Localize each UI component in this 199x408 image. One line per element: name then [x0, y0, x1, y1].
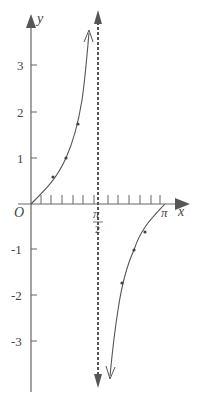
asymptote-up-arrow-icon: [94, 10, 102, 24]
y-tick-2: 2: [17, 105, 24, 120]
y-tick-3: 3: [17, 58, 24, 73]
pi-label: π: [161, 205, 168, 220]
asymptote-line: [94, 10, 102, 388]
point-pi-6: [51, 175, 54, 178]
tangent-graph: y x O π 2 π 3 2 1 -1 -2 -3: [0, 0, 199, 408]
y-tick-1: 1: [17, 151, 24, 166]
asymptote-down-arrow-icon: [94, 374, 102, 388]
y-tick-minus-3: -3: [11, 334, 22, 349]
pi-half-denominator: 2: [95, 224, 100, 235]
pi-half-numerator: π: [93, 206, 100, 221]
y-tick-minus-2: -2: [11, 288, 22, 303]
y-tick-minus-1: -1: [11, 242, 22, 257]
curve-right-branch: [106, 204, 165, 379]
point-5pi-6: [143, 230, 146, 233]
origin-label: O: [14, 205, 24, 220]
point-pi-3: [76, 122, 79, 125]
point-3pi-4: [132, 248, 135, 251]
y-axis-arrow-icon: [26, 14, 36, 28]
point-pi-4: [64, 156, 67, 159]
point-2pi-3: [120, 281, 123, 284]
y-axis-label: y: [35, 11, 44, 26]
x-axis-label: x: [177, 204, 185, 219]
curve-left-branch: [31, 30, 93, 204]
